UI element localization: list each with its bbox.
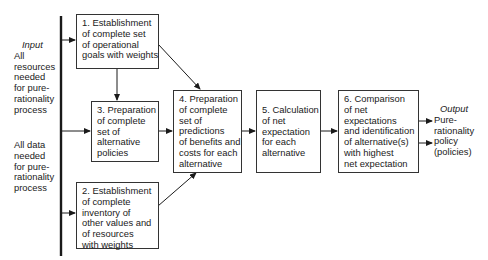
box-4-predictions: 4. Preparation of complete set of predic… bbox=[173, 90, 242, 173]
text-line: alternative bbox=[179, 159, 238, 170]
text-line: of complete set bbox=[82, 29, 155, 40]
output-label: Output Pure- rationality policy (policie… bbox=[434, 104, 474, 158]
box-5-net-expectation: 5. Calculation of net expectation for ea… bbox=[256, 90, 321, 173]
box-1-goals: 1. Establishment of complete set of oper… bbox=[76, 14, 159, 69]
text-line: of complete bbox=[82, 197, 155, 208]
text-line: Pure- bbox=[434, 115, 474, 126]
input-data-label: All data needed for pure- rationality pr… bbox=[14, 140, 54, 194]
text-line: policies bbox=[97, 148, 155, 159]
input-resources-label: Input All resources needed for pure- rat… bbox=[14, 40, 55, 116]
text-line: of net bbox=[344, 105, 415, 116]
text-line: goals with weights bbox=[82, 50, 155, 61]
text-line: All bbox=[14, 51, 55, 62]
text-line: needed bbox=[14, 151, 54, 162]
text-line: of net bbox=[262, 116, 317, 127]
text-line: alternative bbox=[262, 148, 317, 159]
text-line: process bbox=[14, 183, 54, 194]
text-line: of complete bbox=[179, 105, 238, 116]
text-line: with weights bbox=[82, 240, 155, 251]
box-3-alternative-policies: 3. Preparation of complete set of altern… bbox=[91, 101, 159, 162]
text-line: (policies) bbox=[434, 147, 474, 158]
text-line: net expectation bbox=[344, 159, 415, 170]
box-6-comparison: 6. Comparison of net expectations and id… bbox=[338, 90, 419, 173]
text-line: of complete bbox=[97, 116, 155, 127]
text-line: process bbox=[14, 105, 55, 116]
box-2-values-inventory: 2. Establishment of complete inventory o… bbox=[76, 182, 159, 249]
